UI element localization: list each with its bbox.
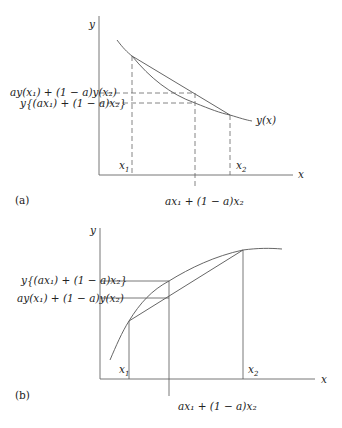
panel-a: y x ay(x₁) + (1 − a)y(x₂) y{(ax₁) + (1 −… [10,16,304,207]
panel-a-x2-label: x2 [236,159,247,174]
panel-a-x-axis-label: x [298,168,304,180]
panel-b: y x y{(ax₁) + (1 − a)x₂} ay(x₁) + (1 − a… [15,224,327,412]
panel-a-curve-value-label: y{(ax₁) + (1 − a)x₂} [19,97,126,110]
panel-a-curve [117,40,252,121]
panel-b-curve [110,248,282,360]
panel-a-x1-label: x1 [119,159,129,174]
panel-a-chord [132,56,230,115]
panel-b-x-axis-label: x [321,373,327,385]
panel-b-curve-value-label: y{(ax₁) + (1 − a)x₂} [20,274,127,287]
panel-a-mid-x-label: ax₁ + (1 − a)x₂ [165,195,244,207]
panel-a-y-axis-label: y [88,18,96,30]
panel-a-curve-label: y(x) [255,114,276,126]
panel-a-label: (a) [15,194,29,206]
panel-b-x2-label: x2 [248,363,259,378]
panel-b-chord-value-label: ay(x₁) + (1 − a)y(x₂) [17,292,124,304]
panel-b-mid-x-label: ax₁ + (1 − a)x₂ [178,400,257,412]
panel-b-x1-label: x1 [119,363,129,378]
panel-b-y-axis-label: y [89,224,97,236]
figure-canvas: y x ay(x₁) + (1 − a)y(x₂) y{(ax₁) + (1 −… [0,0,342,428]
panel-b-label: (b) [15,389,30,401]
panel-b-chord [129,250,243,321]
